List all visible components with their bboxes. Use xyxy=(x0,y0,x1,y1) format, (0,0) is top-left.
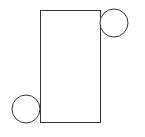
diagram-canvas xyxy=(0,0,145,137)
rectangle-shape xyxy=(41,11,101,123)
circle-top-right xyxy=(100,9,128,37)
circle-bottom-left xyxy=(12,95,40,123)
